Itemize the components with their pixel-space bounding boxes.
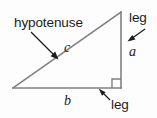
hypotenuse-pointer [31, 32, 59, 60]
right-angle-marker [112, 79, 121, 88]
leg-a-pointer [128, 29, 146, 42]
leg-horizontal-variable-label: b [64, 94, 71, 108]
leg-vertical-variable-label: a [129, 45, 136, 59]
hypotenuse-label: hypotenuse [14, 16, 83, 30]
leg-b-pointer [99, 89, 110, 100]
right-triangle-diagram: hypotenuse c leg a b leg [0, 0, 157, 118]
hypotenuse-variable-label: c [64, 41, 70, 55]
leg-vertical-label: leg [129, 11, 147, 25]
leg-horizontal-label: leg [111, 98, 129, 112]
